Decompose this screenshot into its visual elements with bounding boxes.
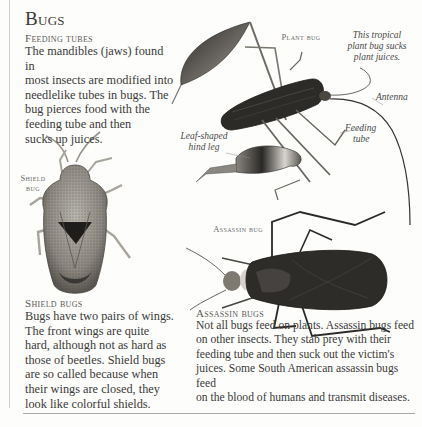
shield-bug-label: Shield bug xyxy=(16,173,50,193)
annotation-line: Feeding xyxy=(345,123,385,134)
assassin-bugs-text: Not all bugs feed on plants. Assassin bu… xyxy=(196,319,416,405)
plant-bug-label: Plant bug xyxy=(271,32,331,42)
assassin-bugs-section: Assassin bugs Not all bugs feed on plant… xyxy=(196,307,416,405)
shield-bugs-text: Bugs have two pairs of wings. The front … xyxy=(25,309,175,411)
feeding-tubes-heading: Feeding tubes xyxy=(25,32,175,44)
feeding-tube-annotation: Feeding tube xyxy=(345,123,385,145)
annotation-line: tube xyxy=(345,134,385,145)
shield-bugs-heading: Shield bugs xyxy=(25,297,175,309)
label-line: bug xyxy=(16,183,50,193)
feeding-tubes-section: Feeding tubes The mandibles (jaws) found… xyxy=(25,32,175,146)
label-line: Shield xyxy=(16,173,50,183)
encyclopedia-page: Bugs Feeding tubes The mandibles (jaws) … xyxy=(0,0,422,427)
caption-line: plant bug sucks xyxy=(341,41,413,52)
shield-bugs-section: Shield bugs Bugs have two pairs of wings… xyxy=(25,297,175,411)
page-title: Bugs xyxy=(25,8,65,30)
feeding-tubes-text: The mandibles (jaws) found in most insec… xyxy=(25,44,175,146)
shield-bug-illustration xyxy=(30,132,130,293)
annotation-line: hind leg xyxy=(176,142,232,153)
hind-leg-annotation: Leaf-shaped hind leg xyxy=(176,131,232,153)
antenna-annotation: Antenna xyxy=(376,92,421,103)
assassin-bugs-heading: Assassin bugs xyxy=(196,307,416,319)
caption-line: This tropical xyxy=(341,30,413,41)
annotation-line: Leaf-shaped xyxy=(176,131,232,142)
assassin-bug-label: Assassin bug xyxy=(208,224,268,234)
plant-bug-caption: This tropical plant bug sucks plant juic… xyxy=(341,30,413,63)
caption-line: plant juices. xyxy=(341,52,413,63)
